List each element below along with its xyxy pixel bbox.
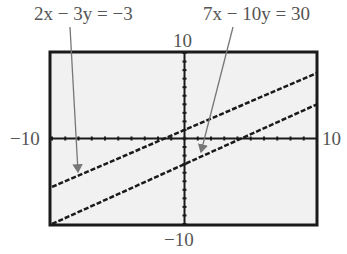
graph — [0, 0, 347, 254]
